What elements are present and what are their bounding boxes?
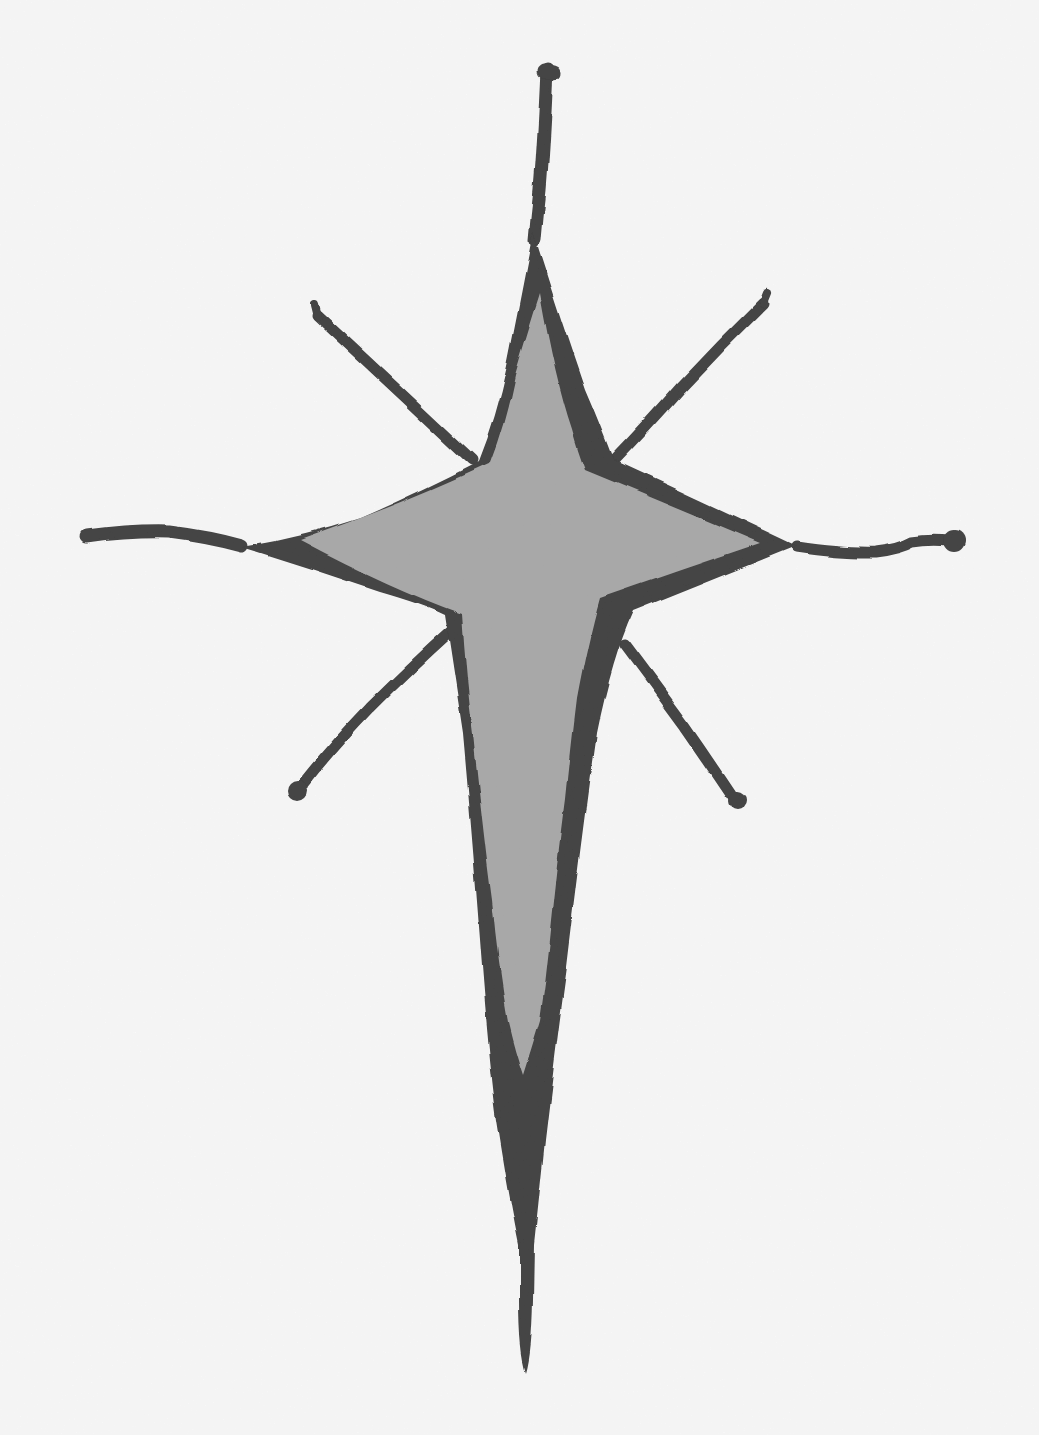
star-illustration xyxy=(0,0,1039,1435)
star-illustration-svg xyxy=(0,0,1039,1435)
scan-noise-overlay xyxy=(0,0,1039,1435)
